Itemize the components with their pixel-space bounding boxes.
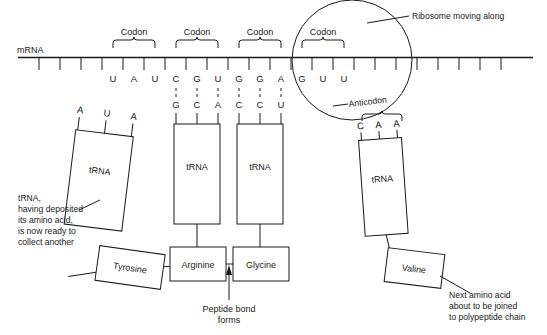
base-pairing-2: G C A — [172, 88, 222, 110]
anticodon-2-base-1: G — [172, 99, 179, 110]
right-note-line-3: to polypeptide chain — [449, 312, 526, 322]
trna-1-body — [64, 130, 133, 231]
anticodon-3-base-2: C — [257, 99, 264, 110]
glycine-label: Glycine — [246, 260, 276, 270]
left-note-line-2: having deposited — [18, 204, 83, 214]
right-note-line-1: Next amino acid — [449, 290, 511, 300]
trna-4-group: C A A tRNA — [357, 118, 410, 255]
anticodon-1-base-1: A — [76, 104, 84, 116]
trna-3-label: tRNA — [249, 162, 271, 172]
anticodon-2-base-2: C — [194, 99, 201, 110]
trna-3-group: tRNA Glycine — [233, 113, 289, 281]
valine-group: Valine — [384, 248, 445, 289]
trna-2-group: tRNA Arginine — [170, 113, 226, 281]
peptide-bond-note-line-2: forms — [218, 315, 241, 325]
left-note-line-1: tRNA, — [18, 193, 41, 203]
trna-2-body — [174, 124, 220, 224]
anticodon-4-base-2: A — [375, 119, 383, 130]
right-note-group: Next amino acid about to be joined to po… — [440, 276, 526, 322]
arginine-label: Arginine — [181, 260, 214, 270]
codon-label-4: Codon — [310, 27, 337, 37]
peptide-bond-arrow-head — [226, 265, 232, 275]
codon-brackets: Codon Codon Codon Codon — [113, 27, 344, 48]
anticodon-leader-line — [333, 104, 348, 106]
codon-label-3: Codon — [247, 27, 274, 37]
mrna-strand: mRNA — [17, 45, 533, 70]
trna-4-body — [359, 138, 409, 237]
codon-1-base-1: U — [110, 73, 117, 84]
right-note-line-2: about to be joined — [449, 301, 518, 311]
anticodon-1-base-3: A — [130, 110, 138, 122]
left-note-line-3: its amino acid, — [18, 215, 73, 225]
codon-4-base-2: U — [320, 73, 327, 84]
trna-4-label: tRNA — [371, 173, 393, 184]
anticodon-1-base-2: U — [103, 107, 111, 119]
anticodon-3-base-3: U — [278, 99, 285, 110]
anticodon-label: Anticodon — [348, 94, 387, 109]
peptide-bond-note-line-1: Peptide bond — [202, 304, 255, 314]
codon-1-base-2: A — [131, 73, 138, 84]
protein-synthesis-diagram: mRNA Codon Codon Codon Codon U A U C G U… — [0, 0, 547, 335]
codon-2-base-3: U — [215, 73, 222, 84]
codon-label-1: Codon — [121, 27, 148, 37]
ribosome-label: Ribosome moving along — [412, 11, 504, 21]
anticodon-4-base-3: A — [393, 118, 401, 129]
ribosome: Ribosome moving along — [292, 0, 504, 120]
codon-4-base-3: U — [341, 73, 348, 84]
codon-3-base-2: G — [256, 73, 263, 84]
anticodon-label-group: Anticodon — [333, 94, 402, 121]
codon-4-base-1: G — [298, 73, 305, 84]
anticodon-3-base-1: C — [236, 99, 243, 110]
codon-bases: U A U C G U G G A G U U — [110, 73, 348, 84]
codon-2-base-2: G — [193, 73, 200, 84]
codon-3-base-1: G — [235, 73, 242, 84]
base-pairing-3: C C U — [236, 88, 285, 110]
codon-2-base-1: C — [173, 73, 180, 84]
trna-3-body — [237, 124, 283, 224]
codon-label-2: Codon — [184, 27, 211, 37]
trna-2-label: tRNA — [186, 162, 208, 172]
ribosome-leader-line — [367, 16, 409, 23]
codon-1-base-3: U — [152, 73, 159, 84]
left-note-line-4: is now ready to — [18, 226, 76, 236]
mrna-ticks — [39, 58, 501, 71]
tyrosine-chain-left — [68, 269, 96, 281]
mrna-label: mRNA — [17, 45, 44, 55]
anticodon-2-base-3: A — [215, 99, 222, 110]
left-note-line-5: collect another — [18, 237, 74, 247]
diagram-canvas: mRNA Codon Codon Codon Codon U A U C G U… — [0, 0, 547, 335]
codon-3-base-3: A — [278, 73, 285, 84]
anticodon-4-base-1: C — [357, 120, 365, 131]
